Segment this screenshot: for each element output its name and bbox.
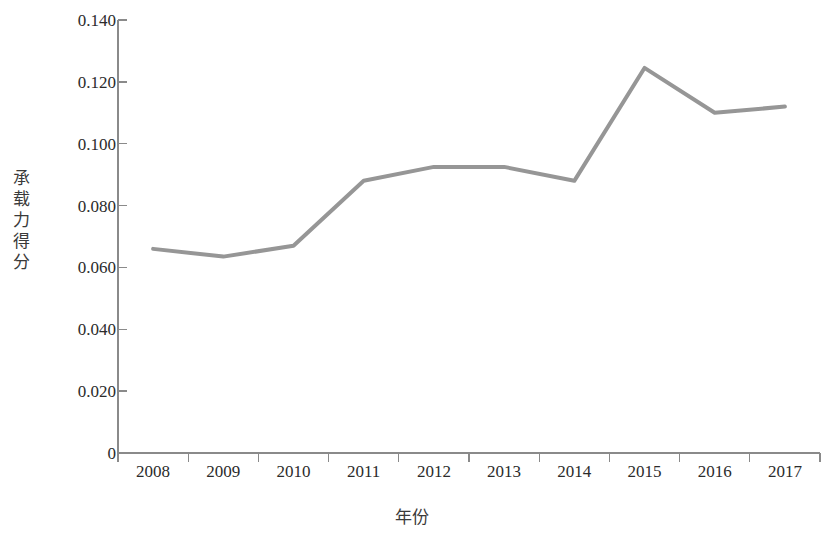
y-tick-label: 0.040: [30, 321, 116, 338]
y-tick-label: 0.120: [30, 73, 116, 90]
axis-tick-marks: [118, 20, 820, 462]
x-axis-tick-labels: 2008200920102011201220132014201520162017: [118, 462, 820, 490]
plot-area: [118, 20, 820, 453]
plot-svg: [118, 20, 820, 453]
y-tick-label: 0.060: [30, 259, 116, 276]
x-tick-label: 2017: [768, 462, 802, 482]
x-tick-label: 2011: [347, 462, 380, 482]
axis-lines: [118, 20, 820, 453]
x-tick-label: 2010: [277, 462, 311, 482]
x-tick-label: 2012: [417, 462, 451, 482]
x-axis-title: 年份: [0, 508, 824, 528]
y-tick-label: 0.020: [30, 383, 116, 400]
y-tick-label: 0.100: [30, 135, 116, 152]
y-tick-label: 0.140: [30, 12, 116, 29]
y-axis-tick-labels: 0.1400.1200.1000.0800.0600.0400.0200: [30, 0, 116, 470]
data-series-group: [153, 68, 785, 257]
x-tick-label: 2013: [487, 462, 521, 482]
data-line-series-0: [153, 68, 785, 257]
y-tick-label: 0.080: [30, 197, 116, 214]
x-tick-label: 2015: [628, 462, 662, 482]
y-tick-label: 0: [30, 445, 116, 462]
x-tick-label: 2009: [206, 462, 240, 482]
x-tick-label: 2008: [136, 462, 170, 482]
line-chart-figure: 承 载 力 得 分 0.1400.1200.1000.0800.0600.040…: [0, 0, 824, 533]
x-tick-label: 2014: [557, 462, 591, 482]
x-tick-label: 2016: [698, 462, 732, 482]
